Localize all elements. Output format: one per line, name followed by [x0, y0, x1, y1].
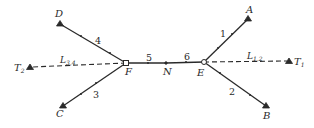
segment-2-E-B — [204, 62, 266, 106]
triangle-marker-B — [263, 103, 270, 109]
survey-network-diagram: D C F N E A B T1 T2 4 3 5 6 1 2 L1,2 L3,… — [0, 0, 314, 128]
label-T2: T2 — [14, 62, 25, 74]
triangle-marker-A — [245, 16, 252, 22]
segment-label-6: 6 — [184, 51, 190, 62]
segment-label-4: 4 — [95, 35, 101, 46]
label-D: D — [54, 8, 63, 19]
segment-6-N-E — [166, 62, 204, 63]
segment-1-E-A — [204, 19, 248, 62]
segment-label-5: 5 — [146, 52, 152, 63]
segment-label-2: 2 — [229, 86, 235, 97]
segment-label-L34: L3,4 — [59, 55, 76, 66]
label-E: E — [196, 67, 205, 78]
label-B: B — [262, 110, 270, 121]
square-marker-F — [124, 61, 129, 66]
segment-label-L12: L1,2 — [246, 51, 263, 62]
segment-L34-F-T2 — [32, 63, 126, 67]
segment-label-3: 3 — [93, 89, 99, 100]
segment-4-F-D — [60, 24, 126, 63]
label-N: N — [162, 66, 173, 77]
triangle-marker-D — [57, 21, 64, 27]
triangle-marker-T2 — [27, 64, 34, 70]
label-T1: T1 — [294, 56, 305, 68]
solid-segments — [60, 19, 266, 106]
segment-label-1: 1 — [220, 28, 226, 39]
label-A: A — [245, 4, 253, 15]
label-F: F — [124, 66, 133, 77]
label-C: C — [56, 108, 64, 119]
circle-marker-E — [202, 60, 207, 65]
segment-L12-E-T1 — [204, 61, 287, 62]
segment-labels: 4 3 5 6 1 2 L1,2 L3,4 — [59, 28, 263, 100]
dot-marker-N — [165, 62, 167, 64]
